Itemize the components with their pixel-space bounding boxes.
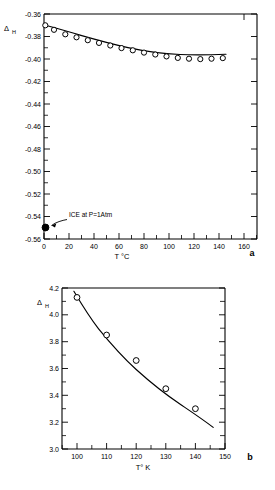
panel-b-ylabel: Δ: [37, 298, 42, 307]
figure-container: Δ H -0.36 -0.38 -0.40 -0.42 -0.44 -0.46: [0, 0, 275, 490]
data-point: [220, 56, 225, 61]
panel-a-ytick-label: -0.56: [25, 236, 41, 243]
data-point: [74, 295, 80, 301]
data-point: [186, 56, 191, 61]
ice-data-point: [42, 224, 49, 231]
panel-a-x-ticks: 0 20 40 60 80 100 120 140 160: [42, 233, 250, 250]
data-point: [163, 386, 169, 392]
panel-b-ytick-label: 3.4: [49, 392, 59, 399]
panel-a-ytick-label: -0.54: [25, 213, 41, 220]
panel-a-xtick-label: 40: [90, 243, 98, 250]
data-point: [153, 52, 158, 57]
panel-b-xtick-label: 110: [101, 453, 112, 460]
data-point: [198, 57, 203, 62]
panel-a-xlabel: T °C: [115, 252, 131, 261]
panel-b: Δ H 4.2 4.0 3.8 3.6 3.4 3.2: [37, 285, 253, 473]
panel-b-xtick-label: 130: [160, 453, 172, 460]
panel-b-xtick-label: 100: [71, 453, 83, 460]
panel-a-xtick-label: 60: [115, 243, 123, 250]
data-point: [85, 38, 90, 43]
panel-a-ytick-label: -0.38: [25, 33, 41, 40]
data-point: [74, 35, 79, 40]
data-point: [130, 48, 135, 53]
panel-b-ytick-label: 3.0: [49, 446, 59, 453]
panel-b-xlabel: T° K: [136, 463, 151, 472]
panel-a-ylabel-sub: H: [12, 29, 16, 35]
panel-b-ytick-label: 4.0: [49, 311, 59, 318]
panel-a-xtick-label: 20: [65, 243, 73, 250]
panel-a-ytick-label: -0.48: [25, 146, 41, 153]
panel-b-ytick-label: 3.6: [49, 365, 59, 372]
panel-label-b: b: [247, 452, 253, 462]
data-point: [193, 406, 199, 412]
panel-a-x-minor-ticks: [57, 235, 257, 239]
panel-b-ylabel-sub: H: [45, 303, 49, 309]
panel-a-ytick-label: -0.42: [25, 78, 41, 85]
data-point: [51, 27, 56, 32]
data-point: [141, 50, 146, 55]
panel-b-ytick-label: 4.2: [49, 285, 59, 292]
panel-a-xtick-label: 100: [163, 243, 175, 250]
panel-label-a: a: [249, 248, 255, 258]
panel-a-ytick-label: -0.36: [25, 11, 41, 18]
panel-a-xtick-label: 140: [213, 243, 225, 250]
panel-a-xtick-label: 80: [140, 243, 148, 250]
panel-a-markers: [43, 23, 226, 62]
data-point: [164, 54, 169, 59]
panel-a-annotation: ICE at P=1Atm: [69, 211, 112, 218]
panel-a-ytick-label: -0.46: [25, 123, 41, 130]
panel-b-y-ticks-right: [219, 288, 225, 449]
panel-a-xtick-label: 160: [238, 243, 250, 250]
data-point: [63, 32, 68, 37]
panel-b-xtick-label: 140: [190, 453, 202, 460]
data-point: [96, 40, 101, 45]
panel-a-ytick-label: -0.40: [25, 56, 41, 63]
panel-b-xtick-label: 150: [219, 453, 231, 460]
panel-b-y-ticks: 4.2 4.0 3.8 3.6 3.4 3.2 3.0: [49, 285, 68, 453]
panel-b-curve: [74, 291, 213, 427]
figure-svg: Δ H -0.36 -0.38 -0.40 -0.42 -0.44 -0.46: [0, 0, 275, 490]
panel-a-ytick-label: -0.50: [25, 168, 41, 175]
data-point: [209, 56, 214, 61]
panel-a-ytick-label: -0.52: [25, 191, 41, 198]
panel-b-ytick-label: 3.2: [49, 419, 59, 426]
data-point: [104, 332, 110, 338]
data-point: [119, 46, 124, 51]
panel-a-y-ticks: -0.36 -0.38 -0.40 -0.42 -0.44 -0.46 -0.4…: [25, 11, 50, 243]
panel-b-markers: [74, 295, 198, 412]
data-point: [133, 358, 139, 364]
panel-a-y-ticks-right: [251, 14, 257, 239]
panel-a-ytick-label: -0.44: [25, 101, 41, 108]
data-point: [108, 43, 113, 48]
panel-b-ytick-label: 3.8: [49, 338, 59, 345]
panel-b-xtick-label: 120: [130, 453, 142, 460]
data-point: [175, 55, 180, 60]
panel-a: Δ H -0.36 -0.38 -0.40 -0.42 -0.44 -0.46: [4, 11, 257, 262]
panel-a-xtick-label: 0: [42, 243, 46, 250]
panel-a-ylabel: Δ: [4, 24, 9, 33]
panel-a-xtick-label: 120: [188, 243, 200, 250]
data-point: [43, 23, 48, 28]
